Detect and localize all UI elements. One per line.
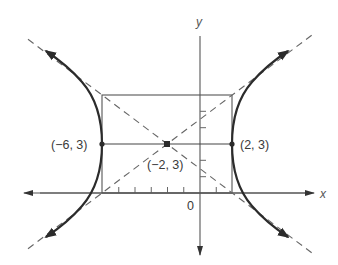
right-vertex-point	[229, 141, 234, 146]
center-point	[164, 141, 170, 147]
hyperbola-right-branch-lower	[232, 144, 288, 237]
x-ticks	[119, 187, 217, 193]
right-vertex-label: (2, 3)	[240, 138, 269, 152]
hyperbola-right-branch-upper	[232, 51, 288, 144]
x-axis-label: x	[319, 187, 327, 201]
origin-label: 0	[187, 199, 194, 213]
hyperbola-left-branch-upper	[46, 51, 102, 144]
left-vertex-point	[99, 141, 104, 146]
hyperbola-left-branch-lower	[46, 144, 102, 237]
y-axis-label: y	[195, 15, 203, 29]
left-vertex-label: (−6, 3)	[51, 138, 87, 152]
hyperbola-diagram: (−6, 3) (−2, 3) (2, 3) 0 x y	[0, 0, 338, 265]
center-label: (−2, 3)	[147, 158, 183, 172]
